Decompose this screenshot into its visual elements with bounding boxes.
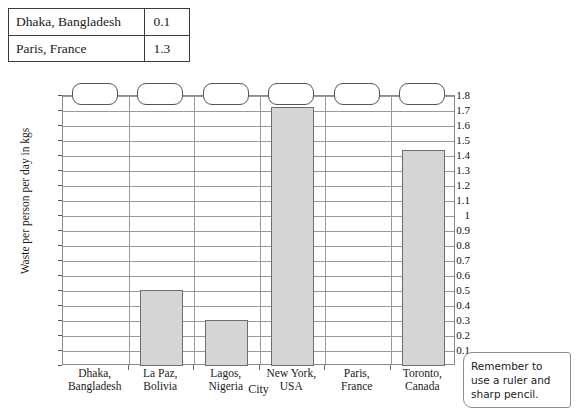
answer-box-4[interactable] [268, 83, 314, 105]
bar [205, 320, 248, 367]
y-axis-label: Waste per person per day in kgs [19, 101, 31, 301]
bar [271, 107, 314, 367]
reminder-note: Remember to use a ruler and sharp pencil… [463, 352, 571, 408]
grid-line [63, 141, 454, 142]
grid-line [63, 276, 454, 277]
grid-line [63, 186, 454, 187]
column-separator [260, 96, 261, 364]
grid-line [63, 96, 454, 97]
table-cell-city: Paris, France [9, 35, 145, 62]
grid-line [63, 246, 454, 247]
reminder-note-text: Remember to use a ruler and sharp pencil… [471, 360, 550, 400]
grid-line [63, 156, 454, 157]
answer-box-1[interactable] [72, 83, 118, 105]
grid-line [63, 216, 454, 217]
answer-box-5[interactable] [334, 83, 380, 105]
grid-line [63, 111, 454, 112]
grid-line [63, 336, 454, 337]
grid-line [63, 291, 454, 292]
grid-line [63, 231, 454, 232]
answer-box-6[interactable] [399, 83, 445, 105]
table-row: Paris, France 1.3 [9, 35, 190, 62]
x-axis-label: City [62, 382, 455, 397]
answer-box-3[interactable] [203, 83, 249, 105]
grid-line [63, 261, 454, 262]
table-cell-city: Dhaka, Bangladesh [9, 9, 145, 36]
column-separator [391, 96, 392, 364]
answer-box-2[interactable] [137, 83, 183, 105]
plot-area [62, 95, 455, 365]
bar [140, 290, 183, 367]
grid-line [63, 306, 454, 307]
grid-line [63, 351, 454, 352]
grid-line [63, 126, 454, 127]
grid-line [63, 171, 454, 172]
y-tick-mark [58, 365, 62, 366]
column-separator [194, 96, 195, 364]
table-cell-value: 1.3 [145, 35, 190, 62]
given-values-table: Dhaka, Bangladesh 0.1 Paris, France 1.3 [8, 8, 190, 62]
bar-chart: Waste per person per day in kgs 00.10.20… [0, 70, 470, 400]
column-separator [325, 96, 326, 364]
bar [402, 150, 445, 366]
table-row: Dhaka, Bangladesh 0.1 [9, 9, 190, 36]
grid-line [63, 321, 454, 322]
grid-line [63, 201, 454, 202]
column-separator [129, 96, 130, 364]
table-cell-value: 0.1 [145, 9, 190, 36]
